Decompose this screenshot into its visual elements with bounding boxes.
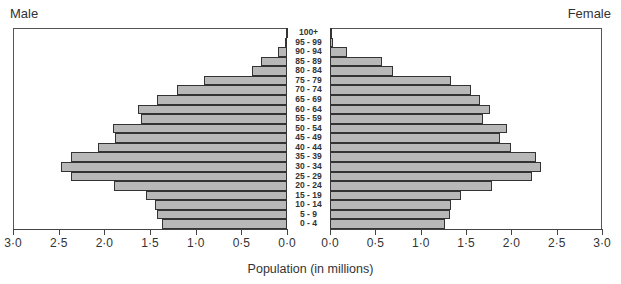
male-bar (98, 143, 287, 153)
female-bar (330, 95, 480, 105)
male-bar (146, 191, 287, 201)
x-tick-mark (241, 229, 242, 235)
female-bar (330, 219, 445, 229)
x-tick-mark (104, 229, 105, 235)
age-group-label: 0 - 4 (287, 219, 330, 229)
cropped-title (0, 0, 621, 3)
female-bar (330, 28, 332, 38)
x-tick-mark (511, 229, 512, 235)
male-bar (162, 219, 287, 229)
female-bar (330, 200, 451, 210)
x-tick-mark (287, 229, 288, 235)
female-bar (330, 162, 541, 172)
x-tick-mark (557, 229, 558, 235)
female-bar (330, 210, 450, 220)
x-tick-mark (466, 229, 467, 235)
male-bar (114, 181, 287, 191)
x-tick-label: 3·0 (0, 236, 28, 250)
male-bar (155, 200, 287, 210)
male-bar (71, 152, 287, 162)
male-bar (157, 95, 287, 105)
male-label: Male (10, 6, 38, 21)
x-tick-label: 1·0 (406, 236, 436, 250)
female-bar (330, 38, 333, 48)
male-bar (278, 47, 287, 57)
male-bar (138, 105, 287, 115)
male-bar (252, 66, 287, 76)
x-tick-label: 0·0 (272, 236, 302, 250)
female-label: Female (568, 6, 611, 21)
x-tick-label: 1·0 (181, 236, 211, 250)
female-bar (330, 181, 492, 191)
x-axis-title: Population (in millions) (0, 262, 621, 276)
female-bar (330, 47, 347, 57)
x-tick-label: 2·5 (44, 236, 74, 250)
female-bar (330, 191, 461, 201)
x-tick-mark (602, 229, 603, 235)
male-bar (157, 210, 287, 220)
x-tick-label: 0·5 (360, 236, 390, 250)
female-bar (330, 124, 507, 134)
x-tick-label: 1·5 (135, 236, 165, 250)
x-tick-label: 0·5 (226, 236, 256, 250)
male-bar (71, 172, 287, 182)
x-tick-label: 0·0 (315, 236, 345, 250)
x-tick-mark (330, 229, 331, 235)
x-tick-mark (421, 229, 422, 235)
male-bar (261, 57, 287, 67)
female-bar (330, 57, 382, 67)
female-bar (330, 114, 483, 124)
female-bar (330, 76, 451, 86)
female-bar (330, 152, 536, 162)
female-bar (330, 172, 532, 182)
x-tick-mark (59, 229, 60, 235)
female-bar (330, 105, 490, 115)
male-bar (115, 133, 287, 143)
x-tick-mark (375, 229, 376, 235)
x-tick-mark (150, 229, 151, 235)
female-bar (330, 85, 471, 95)
x-tick-label: 2·0 (89, 236, 119, 250)
x-tick-mark (196, 229, 197, 235)
female-bar (330, 133, 500, 143)
x-tick-mark (13, 229, 14, 235)
male-bar (141, 114, 287, 124)
x-tick-label: 2·0 (496, 236, 526, 250)
female-bar (330, 143, 511, 153)
x-tick-label: 3·0 (587, 236, 617, 250)
male-bar (204, 76, 287, 86)
male-bar (113, 124, 287, 134)
x-tick-label: 1·5 (451, 236, 481, 250)
female-bar (330, 66, 393, 76)
x-tick-label: 2·5 (542, 236, 572, 250)
male-bar (177, 85, 287, 95)
male-bar (61, 162, 287, 172)
